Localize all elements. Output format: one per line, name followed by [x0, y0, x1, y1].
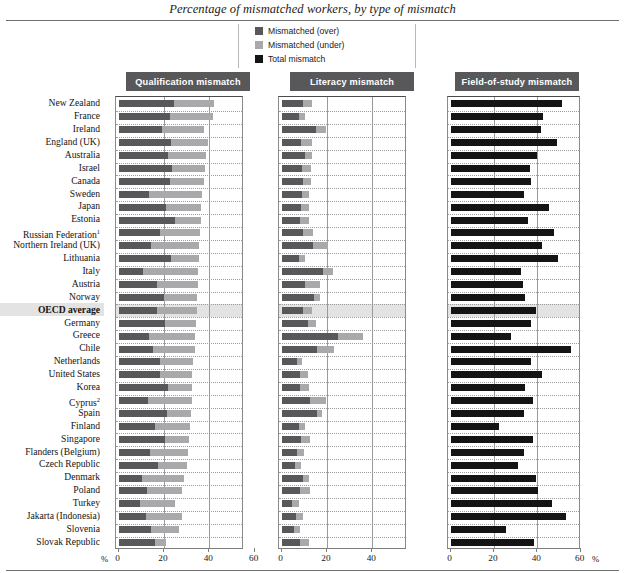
row-gridline	[279, 124, 405, 125]
bar-mismatched-under	[301, 436, 310, 443]
bar-mismatched-over	[119, 178, 170, 185]
bar-mismatched-under	[155, 539, 166, 546]
bar-mismatched-under	[300, 217, 309, 224]
bar-mismatched-under	[300, 371, 308, 378]
row-gridline	[116, 111, 242, 112]
bar-mismatched-under	[172, 165, 205, 172]
bar-mismatched-over	[282, 191, 302, 198]
row-gridline	[116, 175, 242, 176]
bar-total-mismatch	[451, 397, 533, 404]
row-gridline	[448, 433, 579, 434]
bar-mismatched-over	[282, 217, 300, 224]
row-gridline	[448, 240, 579, 241]
bar-mismatched-under	[142, 475, 184, 482]
bar-mismatched-under	[165, 436, 189, 443]
bar-mismatched-over	[119, 397, 149, 404]
bar-mismatched-under	[300, 539, 309, 546]
legend-item-label: Mismatched (under)	[268, 40, 344, 50]
bar-mismatched-under	[300, 487, 310, 494]
bar-mismatched-under	[296, 513, 303, 520]
value-gridline	[327, 97, 328, 548]
bar-total-mismatch	[451, 449, 525, 456]
bar-mismatched-over	[282, 242, 314, 249]
bar-mismatched-under	[150, 449, 187, 456]
row-gridline	[116, 472, 242, 473]
bar-mismatched-under	[149, 191, 202, 198]
bar-mismatched-under	[171, 255, 199, 262]
row-gridline	[448, 498, 579, 499]
legend-item-label: Total mismatch	[268, 54, 325, 64]
row-gridline	[116, 253, 242, 254]
row-gridline	[279, 253, 405, 254]
bar-mismatched-under	[305, 281, 320, 288]
bar-mismatched-under	[151, 242, 199, 249]
bar-total-mismatch	[451, 139, 557, 146]
category-label: Slovak Republic	[36, 537, 100, 547]
row-gridline	[448, 253, 579, 254]
x-axis-tick	[163, 548, 164, 552]
bar-mismatched-under	[140, 500, 175, 507]
x-axis-tick-label: 20	[312, 553, 340, 563]
bar-mismatched-over	[119, 100, 175, 107]
legend-item: Mismatched (over)	[255, 24, 415, 38]
bar-mismatched-under	[146, 513, 182, 520]
bar-total-mismatch	[451, 152, 538, 159]
bar-mismatched-under	[299, 423, 306, 430]
bar-mismatched-under	[297, 358, 302, 365]
row-gridline	[116, 485, 242, 486]
bar-mismatched-under	[155, 423, 190, 430]
row-gridline	[116, 498, 242, 499]
row-gridline	[279, 446, 405, 447]
row-gridline	[448, 472, 579, 473]
row-gridline	[448, 356, 579, 357]
bar-total-mismatch	[451, 268, 522, 275]
bar-total-mismatch	[451, 255, 558, 262]
bar-mismatched-over	[119, 229, 161, 236]
row-gridline	[279, 524, 405, 525]
bar-mismatched-over	[282, 255, 299, 262]
bar-mismatched-over	[282, 165, 302, 172]
bar-mismatched-over	[119, 139, 171, 146]
row-gridline	[116, 201, 242, 202]
bar-mismatched-over	[119, 475, 143, 482]
row-gridline	[279, 511, 405, 512]
x-axis-line-field	[447, 548, 580, 549]
bar-total-mismatch	[451, 294, 526, 301]
bar-total-mismatch	[451, 281, 524, 288]
x-axis-tick-label: 40	[194, 553, 222, 563]
category-label: Austria	[72, 279, 100, 289]
category-label: Italy	[82, 266, 100, 276]
category-label: New Zealand	[49, 98, 100, 108]
category-label: Jakarta (Indonesia)	[27, 511, 100, 521]
bar-mismatched-under	[295, 462, 301, 469]
bar-mismatched-under	[143, 268, 197, 275]
category-label: Czech Republic	[39, 459, 100, 469]
row-gridline	[116, 459, 242, 460]
bar-mismatched-under	[162, 126, 204, 133]
bar-total-mismatch	[451, 100, 563, 107]
row-gridline	[116, 150, 242, 151]
row-gridline	[279, 537, 405, 538]
bar-mismatched-over	[119, 384, 169, 391]
row-gridline	[279, 395, 405, 396]
bar-mismatched-over	[119, 255, 171, 262]
footnote-marker: 2	[97, 396, 100, 403]
row-gridline	[448, 279, 579, 280]
row-gridline	[116, 511, 242, 512]
bar-mismatched-under	[302, 165, 311, 172]
bar-mismatched-under	[175, 217, 201, 224]
bar-mismatched-over	[282, 526, 294, 533]
chart-root: Percentage of mismatched workers, by typ…	[0, 0, 625, 573]
bar-mismatched-over	[119, 217, 176, 224]
legend-item: Mismatched (under)	[255, 38, 415, 52]
row-gridline	[116, 421, 242, 422]
bar-mismatched-over	[119, 268, 144, 275]
bar-mismatched-under	[305, 152, 312, 159]
row-gridline	[279, 433, 405, 434]
bar-total-mismatch	[451, 384, 526, 391]
bar-mismatched-under	[303, 307, 312, 314]
bar-mismatched-under	[170, 113, 213, 120]
x-axis-tick-label: 20	[479, 553, 507, 563]
row-gridline	[448, 343, 579, 344]
row-gridline	[448, 446, 579, 447]
